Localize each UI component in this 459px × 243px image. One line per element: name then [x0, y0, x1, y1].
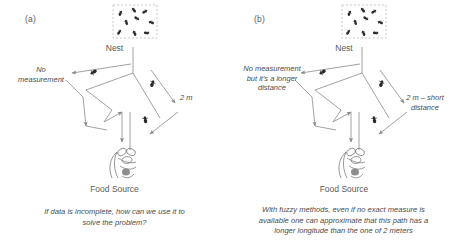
right-path-label-a: 2 m [180, 93, 220, 103]
food-source-plant-icon [110, 147, 137, 178]
nest-label-b: Nest [229, 43, 459, 53]
food-approach-arrow [351, 112, 359, 150]
long-path-left [66, 64, 133, 130]
panel-a: (a) [0, 0, 229, 243]
panel-b: (b) [229, 0, 458, 243]
nest-label-a: Nest [0, 43, 229, 53]
left-path-label-b: No measurement but it's a longer distanc… [229, 64, 315, 93]
panel-b-caption: With fuzzy methods, even if no exact mea… [229, 205, 458, 237]
food-approach-arrow [122, 112, 130, 150]
nest-ant-group [116, 7, 155, 37]
food-source-label-b: Food Source [229, 184, 459, 194]
right-path-label-b: 2 m – short distance [391, 93, 459, 112]
food-source-label-a: Food Source [0, 184, 229, 194]
short-path-right [133, 70, 178, 134]
nest-ant-group [345, 7, 384, 37]
panel-a-caption: If data is incomplete, how can we use it… [0, 207, 229, 228]
food-source-plant-icon [339, 147, 366, 178]
left-path-label-a: No measurement [6, 65, 76, 84]
ant-foraging-figure: (a) [0, 0, 459, 243]
